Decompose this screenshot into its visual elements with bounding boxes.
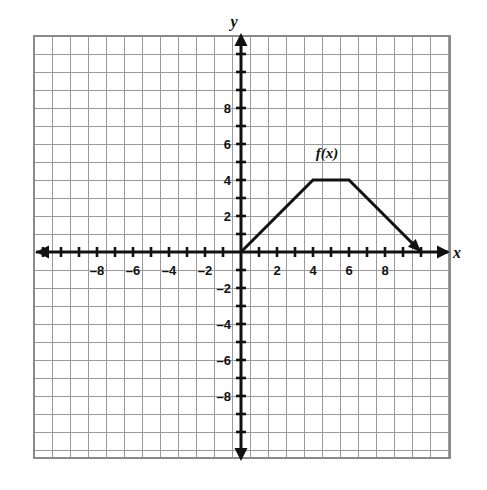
coordinate-plane-figure: –8–6–4–22468 8642–2–4–6–8 x y f(x) bbox=[0, 0, 487, 490]
y-tick-label: –4 bbox=[217, 317, 232, 332]
y-tick-label: 6 bbox=[224, 137, 231, 152]
x-tick-label: 4 bbox=[309, 263, 317, 278]
y-tick-label: 2 bbox=[224, 209, 231, 224]
y-tick-label: –6 bbox=[217, 353, 231, 368]
function-label-fx: f(x) bbox=[316, 145, 339, 162]
x-tick-label: –8 bbox=[90, 263, 104, 278]
x-tick-label: 6 bbox=[345, 263, 352, 278]
y-tick-label: –2 bbox=[217, 281, 231, 296]
y-tick-label: 4 bbox=[224, 173, 232, 188]
graph-svg: –8–6–4–22468 8642–2–4–6–8 x y f(x) bbox=[0, 0, 487, 490]
y-tick-label: –8 bbox=[217, 389, 231, 404]
x-tick-label: –6 bbox=[126, 263, 140, 278]
y-tick-label: 8 bbox=[224, 101, 231, 116]
x-tick-label: 8 bbox=[381, 263, 388, 278]
x-tick-label: –2 bbox=[198, 263, 212, 278]
y-axis-label: y bbox=[228, 13, 238, 31]
x-tick-label: –4 bbox=[162, 263, 177, 278]
x-axis-label: x bbox=[452, 244, 461, 261]
x-tick-label: 2 bbox=[273, 263, 280, 278]
